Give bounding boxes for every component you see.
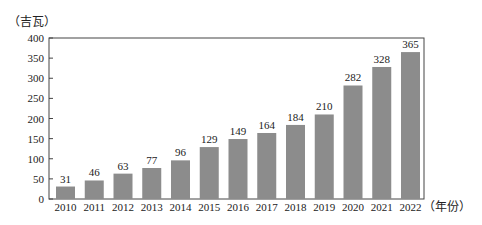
bar [315, 114, 334, 199]
data-label: 184 [287, 111, 304, 123]
bar-chart: （吉瓦） 050100150200250300350400 3146637796… [0, 0, 482, 225]
x-tick-label: 2011 [83, 201, 105, 213]
y-axis-label: （吉瓦） [8, 15, 56, 29]
bar [56, 187, 75, 199]
data-label: 77 [146, 154, 158, 166]
y-tick-label: 300 [28, 72, 45, 84]
data-label: 210 [316, 100, 333, 112]
bar [142, 168, 161, 199]
data-label: 282 [345, 71, 362, 83]
x-tick-label: 2015 [198, 201, 221, 213]
x-axis-label: （年份） [423, 200, 471, 214]
bar [114, 174, 133, 199]
y-tick-label: 200 [28, 113, 45, 125]
data-label: 164 [259, 119, 276, 131]
x-tick-label: 2022 [400, 201, 422, 213]
bar [344, 85, 363, 199]
bar [401, 52, 420, 199]
bar [257, 133, 276, 199]
x-tick-label: 2017 [256, 201, 279, 213]
y-tick-label: 400 [28, 32, 45, 44]
x-tick-label: 2016 [227, 201, 250, 213]
x-tick-label: 2019 [313, 201, 336, 213]
x-tick-label: 2018 [285, 201, 308, 213]
data-label: 149 [230, 125, 247, 137]
bars: 3146637796129149164184210282328365 [56, 38, 420, 199]
data-label: 46 [89, 166, 101, 178]
x-tick-label: 2013 [141, 201, 164, 213]
bar [286, 125, 305, 199]
data-label: 129 [201, 133, 218, 145]
x-tick-label: 2014 [170, 201, 193, 213]
y-tick-label: 150 [28, 133, 45, 145]
y-tick-label: 350 [28, 52, 45, 64]
x-axis: 2010201120122013201420152016201720182019… [55, 201, 422, 213]
x-tick-label: 2012 [112, 201, 134, 213]
bar [171, 160, 190, 199]
data-label: 63 [118, 160, 130, 172]
data-label: 365 [402, 38, 419, 50]
bar [229, 139, 248, 199]
x-tick-label: 2021 [371, 201, 393, 213]
y-tick-label: 50 [33, 173, 45, 185]
data-label: 31 [60, 173, 71, 185]
x-tick-label: 2010 [55, 201, 78, 213]
y-tick-label: 250 [28, 92, 45, 104]
bar [372, 67, 391, 199]
y-tick-label: 0 [39, 193, 45, 205]
x-tick-label: 2020 [342, 201, 365, 213]
data-label: 328 [374, 53, 391, 65]
bar [200, 147, 219, 199]
y-tick-label: 100 [28, 153, 45, 165]
bar [85, 180, 104, 199]
data-label: 96 [175, 146, 187, 158]
